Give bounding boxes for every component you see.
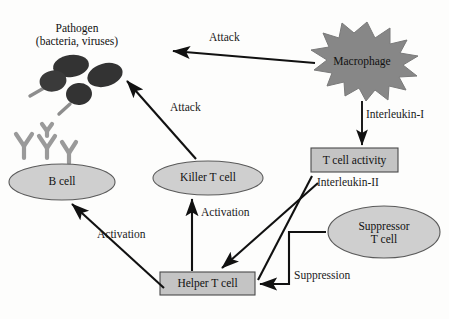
antibody-icon-1 bbox=[16, 134, 32, 158]
pathogen-cluster-icon bbox=[30, 53, 125, 114]
edge-label-suppression: Suppression bbox=[294, 269, 350, 282]
edge-activation-helper-bcell bbox=[72, 204, 164, 288]
edge-label-interleukin-1: Interleukin-I bbox=[366, 108, 424, 121]
t-cell-activity-shape bbox=[311, 148, 398, 172]
antibody-icons bbox=[16, 124, 76, 163]
helper-t-cell-shape bbox=[160, 272, 255, 295]
antibody-icon-2 bbox=[39, 136, 55, 158]
edge-label-attack-macrophage: Attack bbox=[209, 31, 240, 44]
edge-attack-macrophage-pathogen bbox=[173, 51, 315, 63]
suppressor-t-cell-shape bbox=[328, 206, 440, 258]
diagram-canvas bbox=[0, 0, 449, 319]
edge-label-activation-bcell: Activation bbox=[97, 228, 146, 241]
immune-diagram-figure: Pathogen (bacteria, viruses) B cell Kill… bbox=[0, 0, 449, 319]
edge-label-attack-killer: Attack bbox=[170, 101, 201, 114]
edge-label-activation-killer: Activation bbox=[201, 206, 250, 219]
killer-t-cell-shape bbox=[153, 161, 263, 195]
b-cell-shape bbox=[9, 164, 115, 200]
antibody-icon-0 bbox=[42, 124, 52, 136]
edge-label-interleukin-2: Interleukin-II bbox=[317, 176, 379, 189]
macrophage-shape bbox=[311, 22, 418, 101]
edge-attack-killer-pathogen bbox=[127, 81, 196, 159]
antibody-icon-3 bbox=[62, 142, 76, 163]
